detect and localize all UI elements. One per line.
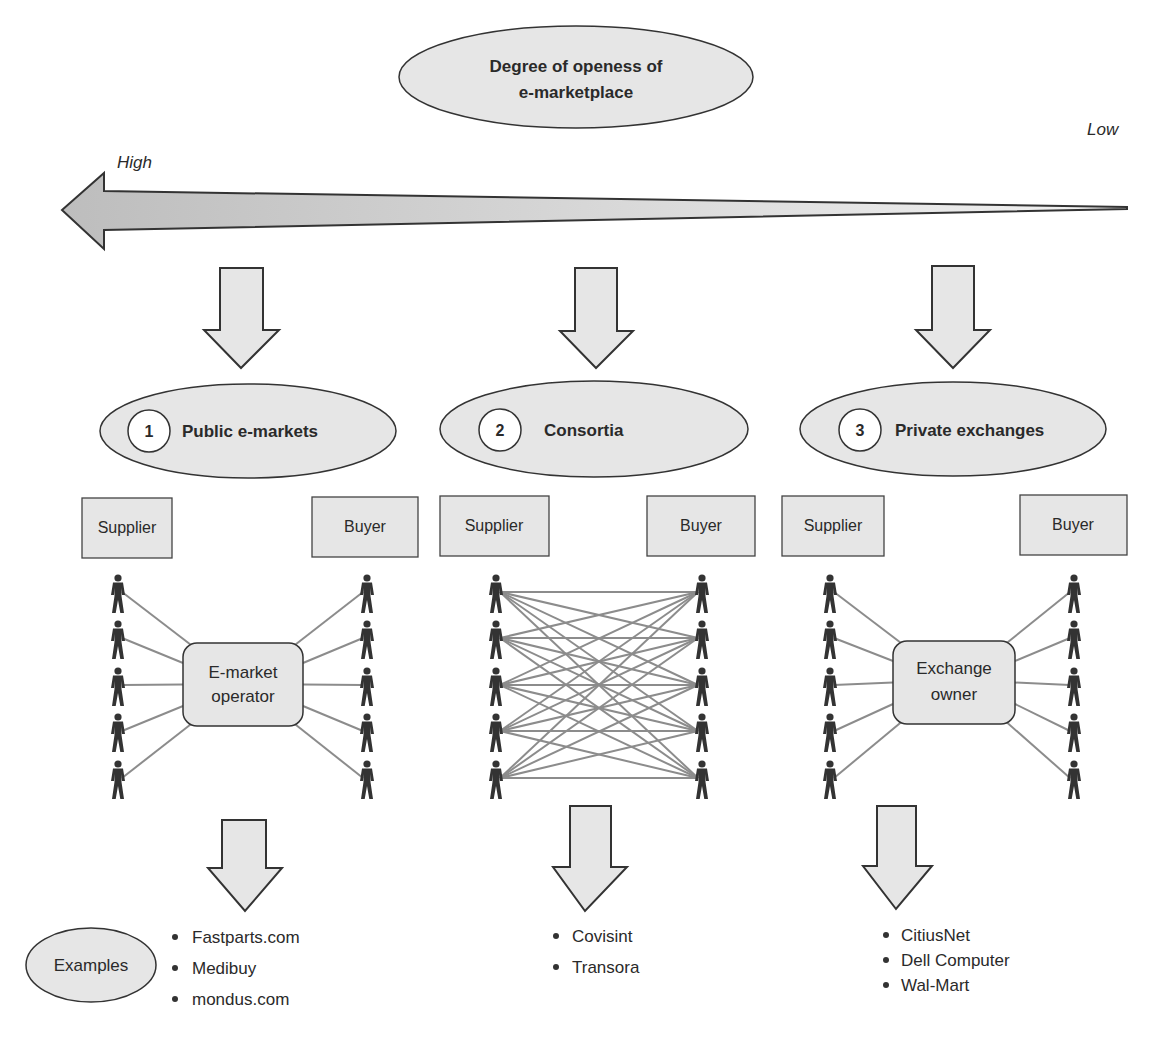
buyer-person-icon — [1067, 574, 1081, 613]
example-item: mondus.com — [192, 990, 289, 1009]
example-item: Wal-Mart — [901, 976, 970, 995]
buyer-box-col3: Buyer — [1020, 495, 1127, 555]
down-arrow-icon-col1-bottom — [208, 820, 282, 911]
down-arrow-icon-col2-bottom — [553, 806, 627, 911]
title-line-2: e-marketplace — [519, 83, 633, 102]
e-marketplace-diagram: Degree of openess of e-marketplace High … — [0, 0, 1171, 1050]
category-private-exchanges: 3 Private exchanges — [800, 382, 1106, 476]
examples-label: Examples — [26, 928, 156, 1002]
buyer-person-icon — [695, 760, 709, 799]
supplier-person-icon — [489, 713, 503, 752]
svg-text:Buyer: Buyer — [680, 517, 722, 534]
example-item: CitiusNet — [901, 926, 970, 945]
svg-text:Buyer: Buyer — [1052, 516, 1094, 533]
category-title: Public e-markets — [182, 422, 318, 441]
supplier-box-col3: Supplier — [782, 496, 884, 556]
buyer-person-icon — [695, 667, 709, 706]
openness-scale-arrow-icon — [62, 173, 1127, 249]
supplier-person-icon — [489, 667, 503, 706]
examples-list-col1: Fastparts.com Medibuy mondus.com — [172, 928, 300, 1009]
buyer-person-icon — [695, 620, 709, 659]
hub-exchange-owner: Exchange owner — [893, 641, 1015, 724]
examples-list-col2: Covisint Transora — [553, 927, 640, 977]
supplier-box-col2: Supplier — [440, 496, 549, 556]
supplier-person-icon — [489, 574, 503, 613]
svg-text:Exchange: Exchange — [916, 659, 992, 678]
supplier-person-icon — [823, 760, 837, 799]
example-item: Transora — [572, 958, 640, 977]
buyer-person-icon — [1067, 620, 1081, 659]
svg-text:Supplier: Supplier — [465, 517, 524, 534]
buyer-person-icon — [360, 574, 374, 613]
supplier-person-icon — [111, 574, 125, 613]
supplier-person-icon — [111, 667, 125, 706]
example-item: Covisint — [572, 927, 633, 946]
supplier-person-icon — [489, 620, 503, 659]
supplier-person-icon — [111, 760, 125, 799]
buyer-person-icon — [695, 713, 709, 752]
buyer-box-col1: Buyer — [312, 497, 418, 557]
buyer-person-icon — [1067, 713, 1081, 752]
supplier-person-icon — [823, 620, 837, 659]
buyer-person-icon — [695, 574, 709, 613]
title-line-1: Degree of openess of — [490, 57, 663, 76]
buyer-person-icon — [360, 667, 374, 706]
svg-text:Supplier: Supplier — [98, 519, 157, 536]
hub-e-market-operator: E-market operator — [183, 643, 303, 726]
low-label: Low — [1087, 120, 1120, 139]
svg-text:Buyer: Buyer — [344, 518, 386, 535]
buyer-person-icon — [1067, 667, 1081, 706]
supplier-person-icon — [111, 620, 125, 659]
category-consortia: 2 Consortia — [440, 381, 748, 477]
example-item: Medibuy — [192, 959, 257, 978]
buyer-person-icon — [360, 620, 374, 659]
example-item: Dell Computer — [901, 951, 1010, 970]
svg-text:Examples: Examples — [54, 956, 129, 975]
down-arrow-icon-col3-bottom — [863, 806, 932, 909]
down-arrow-icon-col2 — [560, 268, 633, 368]
openness-title: Degree of openess of e-marketplace — [399, 26, 753, 128]
svg-text:Supplier: Supplier — [804, 517, 863, 534]
svg-text:E-market: E-market — [209, 663, 278, 682]
supplier-person-icon — [489, 760, 503, 799]
svg-text:2: 2 — [496, 422, 505, 439]
supplier-person-icon — [823, 574, 837, 613]
category-public-e-markets: 1 Public e-markets — [100, 384, 396, 478]
svg-text:3: 3 — [856, 422, 865, 439]
supplier-person-icon — [823, 667, 837, 706]
buyer-person-icon — [1067, 760, 1081, 799]
supplier-person-icon — [111, 713, 125, 752]
example-item: Fastparts.com — [192, 928, 300, 947]
buyer-person-icon — [360, 760, 374, 799]
svg-text:1: 1 — [145, 423, 154, 440]
buyer-box-col2: Buyer — [647, 496, 755, 556]
category-title: Consortia — [544, 421, 624, 440]
down-arrow-icon-col3 — [916, 266, 990, 368]
category-title: Private exchanges — [895, 421, 1044, 440]
svg-text:owner: owner — [931, 685, 978, 704]
examples-list-col3: CitiusNet Dell Computer Wal-Mart — [883, 926, 1010, 995]
supplier-box-col1: Supplier — [82, 498, 172, 558]
down-arrow-icon-col1 — [204, 268, 279, 368]
buyer-person-icon — [360, 713, 374, 752]
high-label: High — [117, 153, 152, 172]
supplier-person-icon — [823, 713, 837, 752]
svg-text:operator: operator — [211, 687, 275, 706]
